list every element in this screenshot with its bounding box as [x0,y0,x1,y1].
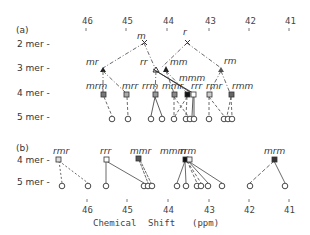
node-label-r: r [183,27,188,37]
node-label-rr: rr [140,57,149,67]
node-label-rm: rm [224,56,237,66]
node-label-mr: mr [86,57,100,67]
top-axis: 46 45 44 43 42 41 [82,16,296,31]
node-label-b-rrr: rrr [100,146,112,156]
node-label-rmr: rmr [206,81,223,91]
node-label-rrr: rrr [191,81,203,91]
row-4mer: 4 mer - [17,88,50,98]
top-tick-46: 46 [82,16,93,26]
top-tick-42: 42 [245,16,256,26]
x-marker-icon [142,40,190,45]
node-label-mrr: mrr [122,81,139,91]
bottom-tick-42: 42 [244,205,255,215]
xlabel-chemical: Chemical [93,218,136,228]
circle-marker-icon [109,116,235,122]
row-b-5mer: 5 mer - [17,177,50,187]
top-tick-41: 41 [285,16,296,26]
panel-a-label: (a) [16,25,29,35]
top-tick-45: 45 [122,16,133,26]
xlabel-ppm: (ppm) [192,218,219,228]
node-label-b-mmr: mmr [130,146,153,156]
row-2mer: 2 mer - [17,39,50,49]
bottom-tick-41: 41 [284,205,295,215]
row-3mer: 3 mer - [17,63,50,73]
row-b-4mer: 4 mer - [17,155,50,165]
panel-b-label: (b) [16,143,29,153]
node-label-b-rrm: rrm [180,146,196,156]
bottom-tick-45: 45 [122,205,133,215]
xlabel-shift: Shift [148,218,175,228]
node-label-mrm: mrm [86,81,107,91]
node-label-b-rmr: rmr [53,146,70,156]
top-tick-44: 44 [163,16,174,26]
node-label-rmm: rmm [232,81,253,91]
tacticity-diagram: 46 45 44 43 42 41 (a) 2 mer - 3 mer - 4 … [0,0,310,235]
node-label-rrm: rrm [142,81,158,91]
node-label-m: m [137,31,146,41]
top-tick-43: 43 [205,16,216,26]
row-5mer: 5 mer - [17,112,50,122]
bottom-tick-44: 44 [163,205,174,215]
node-label-mm: mm [170,57,188,67]
bottom-tick-43: 43 [204,205,215,215]
bottom-tick-46: 46 [82,205,93,215]
node-label-b-mrm: mrm [264,146,285,156]
